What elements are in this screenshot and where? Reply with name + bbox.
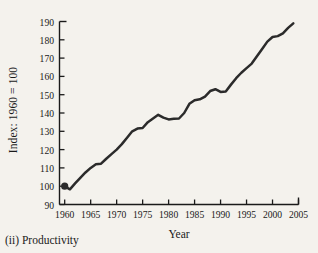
- y-tick-label: 100: [22, 181, 54, 192]
- y-tick-label: 150: [22, 89, 54, 100]
- y-tick-label: 170: [22, 53, 54, 64]
- y-tick-label: 90: [22, 199, 54, 210]
- x-tick-label: 2005: [289, 209, 308, 220]
- x-axis-title: Year: [59, 228, 299, 240]
- y-tick-label: 140: [22, 108, 54, 119]
- y-axis-title: Index: 1960 = 100: [7, 25, 19, 195]
- x-tick-label: 1985: [185, 209, 204, 220]
- x-tick-label: 1980: [159, 209, 178, 220]
- y-tick-label: 190: [22, 16, 54, 27]
- x-tick-label: 1965: [81, 209, 100, 220]
- x-tick-label: 2000: [263, 209, 282, 220]
- figure-caption: (ii) Productivity: [5, 234, 79, 246]
- y-tick-label: 160: [22, 71, 54, 82]
- y-tick-label: 180: [22, 34, 54, 45]
- series-line-productivity: [65, 23, 294, 189]
- y-tick-label: 120: [22, 144, 54, 155]
- x-tick-label: 1975: [133, 209, 152, 220]
- x-tick-label: 1990: [211, 209, 230, 220]
- productivity-line-chart: Index: 1960 = 100 Year 90100110120130140…: [0, 0, 318, 253]
- x-tick-label: 1970: [107, 209, 126, 220]
- y-tick-label: 130: [22, 126, 54, 137]
- figure-panel: Index: 1960 = 100 Year 90100110120130140…: [0, 0, 318, 253]
- x-tick-label: 1960: [55, 209, 74, 220]
- x-tick-label: 1995: [237, 209, 256, 220]
- base-year-marker: [61, 183, 68, 190]
- y-tick-label: 110: [22, 162, 54, 173]
